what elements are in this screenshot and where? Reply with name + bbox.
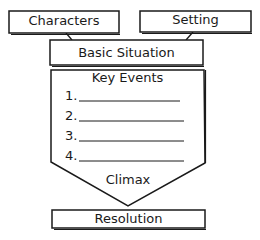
- basic-situation-label: Basic Situation: [50, 45, 203, 61]
- event-number-2: 2.: [65, 108, 77, 124]
- event-number-1: 1.: [65, 88, 77, 104]
- event-number-3: 3.: [65, 128, 77, 144]
- climax-label: Climax: [51, 172, 205, 188]
- key-events-title: Key Events: [51, 70, 204, 86]
- characters-label: Characters: [9, 13, 119, 29]
- event-number-4: 4.: [65, 148, 77, 164]
- diagram-shapes: [0, 0, 260, 240]
- resolution-label: Resolution: [52, 211, 205, 227]
- setting-label: Setting: [140, 12, 251, 28]
